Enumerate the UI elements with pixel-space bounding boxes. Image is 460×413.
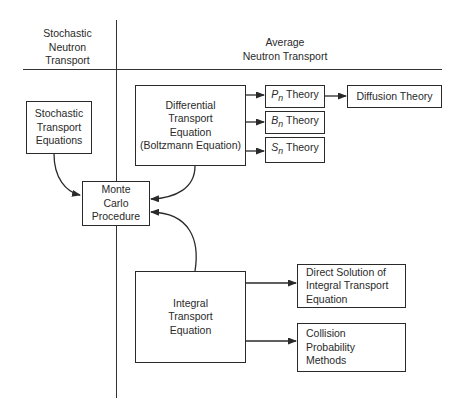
arrow-stochastic-to-monte-carlo xyxy=(54,154,80,195)
arrow-differential-to-monte-carlo xyxy=(151,166,195,199)
edge-layer xyxy=(0,0,460,413)
arrow-integral-to-monte-carlo xyxy=(151,212,196,271)
